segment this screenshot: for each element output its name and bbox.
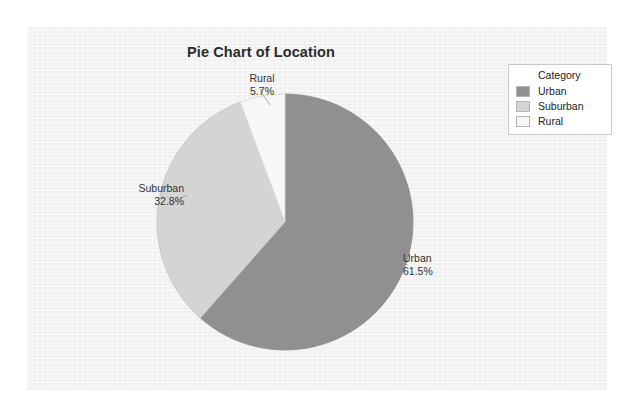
slice-label-rural-name: Rural — [249, 72, 274, 84]
legend-label-suburban: Suburban — [538, 100, 584, 113]
slice-label-suburban-percent: 32.8% — [94, 195, 184, 208]
legend-swatch-urban — [516, 86, 530, 97]
legend-swatch-suburban — [516, 101, 530, 112]
legend-swatch-rural — [516, 116, 530, 127]
legend-item-rural[interactable]: Rural — [516, 114, 604, 128]
slice-label-suburban: Suburban 32.8% — [94, 182, 184, 208]
legend-item-suburban[interactable]: Suburban — [516, 99, 604, 113]
screenshot-root: Pie Chart of Location Rural 5.7% — [0, 0, 633, 418]
pie-slices — [157, 94, 413, 350]
chart-legend: Category Urban Suburban Rural — [508, 64, 612, 135]
slice-label-suburban-name: Suburban — [138, 182, 184, 194]
legend-item-urban[interactable]: Urban — [516, 84, 604, 98]
slice-label-rural-percent: 5.7% — [229, 85, 295, 98]
slice-label-rural: Rural 5.7% — [229, 72, 295, 98]
slice-label-urban: Urban 61.5% — [403, 252, 483, 278]
legend-title: Category — [538, 69, 604, 82]
chart-panel: Pie Chart of Location Rural 5.7% — [27, 27, 607, 390]
legend-label-urban: Urban — [538, 85, 567, 98]
slice-label-urban-name: Urban — [403, 252, 432, 264]
slice-label-urban-percent: 61.5% — [403, 265, 483, 278]
legend-label-rural: Rural — [538, 115, 563, 128]
